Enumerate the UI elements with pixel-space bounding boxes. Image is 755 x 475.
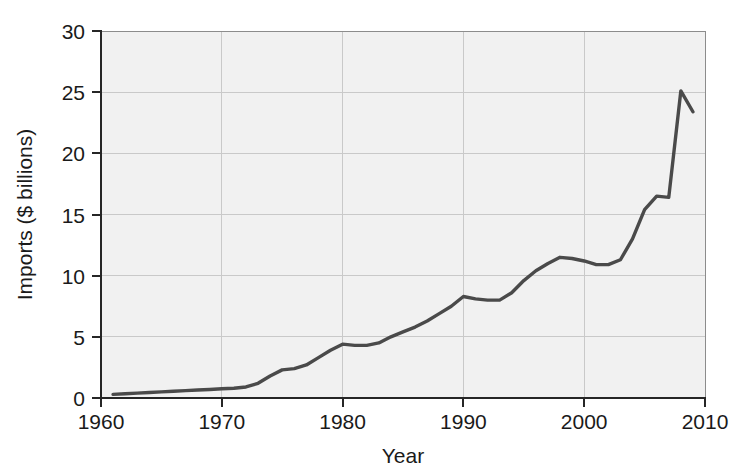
- x-axis-title: Year: [382, 444, 424, 467]
- y-tick-label-15: 15: [62, 204, 85, 227]
- y-tick-label-20: 20: [62, 142, 85, 165]
- x-axis-ticks: [101, 398, 705, 407]
- y-tick-label-10: 10: [62, 265, 85, 288]
- y-tick-label-30: 30: [62, 20, 85, 43]
- y-tick-label-25: 25: [62, 81, 85, 104]
- x-tick-label-1970: 1970: [198, 410, 245, 433]
- chart-figure: 0 5 10 15 20 25 30 1960 1970 1980 1990 2…: [0, 0, 755, 475]
- y-axis-ticks: [92, 31, 101, 398]
- y-tick-label-5: 5: [73, 326, 85, 349]
- x-tick-label-1960: 1960: [78, 410, 125, 433]
- x-tick-label-1990: 1990: [440, 410, 487, 433]
- x-tick-label-2010: 2010: [682, 410, 729, 433]
- x-tick-label-1980: 1980: [319, 410, 366, 433]
- y-axis-title: Imports ($ billions): [13, 129, 36, 301]
- line-chart: 0 5 10 15 20 25 30 1960 1970 1980 1990 2…: [0, 0, 755, 475]
- y-tick-label-0: 0: [73, 387, 85, 410]
- x-tick-label-2000: 2000: [561, 410, 608, 433]
